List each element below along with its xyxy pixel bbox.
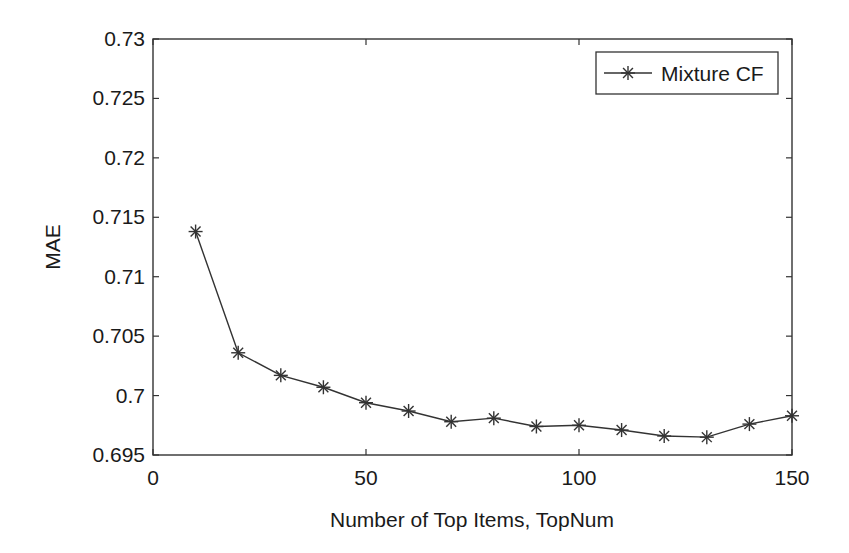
y-tick-label: 0.695 — [92, 443, 145, 466]
x-tick-label: 0 — [147, 466, 159, 489]
asterisk-marker-icon — [529, 419, 543, 433]
asterisk-marker-icon — [572, 418, 586, 432]
asterisk-marker-icon — [359, 396, 373, 410]
data-series — [189, 225, 799, 445]
x-tick-label: 150 — [774, 466, 809, 489]
asterisk-marker-icon — [742, 417, 756, 431]
asterisk-marker-icon — [615, 423, 629, 437]
y-tick-label: 0.705 — [92, 324, 145, 347]
y-tick-label: 0.715 — [92, 205, 145, 228]
plot-area — [153, 39, 792, 455]
series-line — [196, 232, 792, 438]
asterisk-marker-icon — [700, 430, 714, 444]
x-tick-label: 50 — [354, 466, 377, 489]
legend-label: Mixture CF — [661, 62, 764, 85]
y-tick-label: 0.725 — [92, 86, 145, 109]
asterisk-marker-icon — [231, 346, 245, 360]
line-chart: 0501001500.6950.70.7050.710.7150.720.725… — [0, 0, 849, 553]
x-tick-label: 100 — [561, 466, 596, 489]
asterisk-marker-icon — [402, 404, 416, 418]
legend: Mixture CF — [596, 52, 778, 94]
asterisk-marker-icon — [189, 225, 203, 239]
y-tick-label: 0.73 — [104, 27, 145, 50]
asterisk-marker-icon — [274, 368, 288, 382]
asterisk-marker-icon — [316, 380, 330, 394]
asterisk-marker-icon — [785, 409, 799, 423]
y-tick-label: 0.72 — [104, 146, 145, 169]
x-axis-label: Number of Top Items, TopNum — [330, 508, 614, 531]
asterisk-marker-icon — [621, 66, 635, 80]
asterisk-marker-icon — [621, 66, 635, 80]
asterisk-marker-icon — [487, 411, 501, 425]
axes-frame — [153, 39, 792, 455]
y-tick-label: 0.7 — [116, 384, 145, 407]
y-tick-label: 0.71 — [104, 265, 145, 288]
y-axis-label: MAE — [41, 224, 64, 270]
asterisk-marker-icon — [444, 415, 458, 429]
asterisk-marker-icon — [657, 429, 671, 443]
